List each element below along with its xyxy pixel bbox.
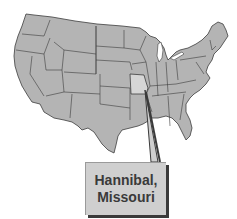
location-callout: Hannibal, Missouri [85, 162, 166, 215]
callout-city: Hannibal, [94, 172, 157, 189]
callout-state: Missouri [97, 189, 155, 206]
us-outline [14, 14, 228, 153]
